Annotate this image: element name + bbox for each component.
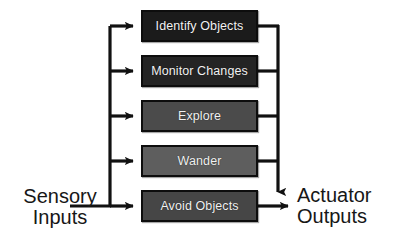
behavior-box-label: Avoid Objects: [160, 200, 238, 213]
behavior-box-avoid-objects[interactable]: Avoid Objects: [141, 190, 258, 222]
behavior-box-label: Monitor Changes: [151, 65, 248, 78]
actuator-outputs-line-2: Outputs: [297, 206, 371, 227]
actuator-outputs-label: Actuator Outputs: [297, 185, 371, 227]
behavior-box-wander[interactable]: Wander: [141, 145, 258, 177]
behavior-box-label: Explore: [178, 110, 221, 123]
sensory-inputs-line-2: Inputs: [8, 207, 112, 228]
behavior-box-label: Identify Objects: [156, 20, 244, 33]
actuator-outputs-line-1: Actuator: [297, 185, 371, 206]
behavior-box-label: Wander: [178, 155, 222, 168]
input-branch-arrows: [110, 26, 133, 206]
sensory-inputs-label: Sensory Inputs: [8, 186, 112, 228]
input-bus: [70, 26, 111, 207]
subsumption-architecture-diagram: Identify Objects Monitor Changes Explore…: [0, 0, 394, 246]
output-bus: [258, 25, 279, 192]
sensory-inputs-line-1: Sensory: [8, 186, 112, 207]
behavior-box-monitor-changes[interactable]: Monitor Changes: [141, 55, 258, 87]
behavior-box-explore[interactable]: Explore: [141, 100, 258, 132]
behavior-box-identify-objects[interactable]: Identify Objects: [141, 10, 258, 42]
